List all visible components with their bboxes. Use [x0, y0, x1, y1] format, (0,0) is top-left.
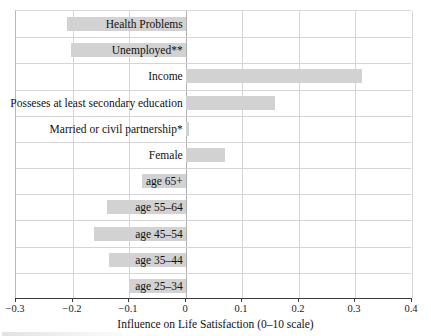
x-tick	[185, 298, 186, 302]
bar	[186, 148, 225, 162]
x-tick	[354, 298, 355, 302]
plot-area: Health ProblemsUnemployed**IncomePossese…	[15, 10, 411, 298]
x-tick	[241, 298, 242, 302]
x-tick-label: −0.1	[108, 303, 148, 314]
bar-label: age 35–44	[135, 251, 183, 269]
bar-label: age 25–34	[135, 277, 183, 295]
x-tick	[128, 298, 129, 302]
x-tick	[15, 298, 16, 302]
x-tick-label: −0.2	[52, 303, 92, 314]
bar	[186, 122, 189, 136]
page-edge-artifact	[2, 332, 122, 336]
x-axis-line	[15, 298, 411, 299]
bar-row: Unemployed**	[16, 37, 411, 63]
bar-row: age 35–44	[16, 247, 411, 273]
x-tick-label: 0.2	[278, 303, 318, 314]
bar-row: age 25–34	[16, 273, 411, 299]
x-tick-label: 0.4	[391, 303, 431, 314]
x-tick-label: 0.3	[334, 303, 374, 314]
bar-row: age 45–54	[16, 220, 411, 246]
bar-label: Married or civil partnership*	[50, 120, 183, 138]
x-tick-label: 0.1	[221, 303, 261, 314]
bar	[186, 69, 363, 83]
bar-label: Posseses at least secondary education	[10, 94, 182, 112]
x-axis-title: Influence on Life Satisfaction (0–10 sca…	[0, 318, 431, 330]
bar-label: Unemployed**	[112, 41, 183, 59]
bar-row: Posseses at least secondary education	[16, 90, 411, 116]
bar-label: Female	[149, 146, 183, 164]
gridline-x-0.4	[412, 11, 413, 298]
bar-row: Married or civil partnership*	[16, 116, 411, 142]
x-tick-label: 0	[165, 303, 205, 314]
x-tick	[411, 298, 412, 302]
bar	[186, 96, 275, 110]
bar-label: age 65+	[146, 172, 183, 190]
bar-row: Female	[16, 142, 411, 168]
bar-label: age 45–54	[135, 225, 183, 243]
x-tick-label: −0.3	[0, 303, 35, 314]
bar-row: Income	[16, 63, 411, 89]
bar-label: age 55–64	[135, 198, 183, 216]
bar-row: Health Problems	[16, 11, 411, 37]
bar-row: age 55–64	[16, 194, 411, 220]
bar-chart: Health ProblemsUnemployed**IncomePossese…	[0, 0, 431, 336]
bar-row: age 65+	[16, 168, 411, 194]
bar-label: Income	[148, 67, 182, 85]
x-tick	[298, 298, 299, 302]
x-tick	[72, 298, 73, 302]
bar-label: Health Problems	[106, 15, 183, 33]
